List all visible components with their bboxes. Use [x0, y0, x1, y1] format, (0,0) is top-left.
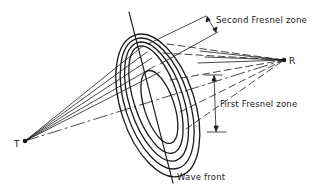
first-fresnel-zone-label: First Fresnel zone [220, 99, 297, 109]
receiver-solid-rays [198, 51, 284, 63]
wave-front-label: Wave front [177, 172, 226, 182]
transmitter-label: T [13, 139, 20, 149]
second-fresnel-zone-label: Second Fresnel zone [216, 15, 307, 25]
fresnel-zone-ellipses [100, 24, 216, 188]
receiver-label: R [289, 56, 295, 66]
transmitter-point [23, 139, 28, 144]
receiver-point [282, 58, 287, 63]
receiver-dashed-rays [163, 44, 284, 129]
fresnel-diagram: Second Fresnel zone First Fresnel zone W… [0, 0, 314, 193]
transmitter-rays [25, 46, 160, 141]
